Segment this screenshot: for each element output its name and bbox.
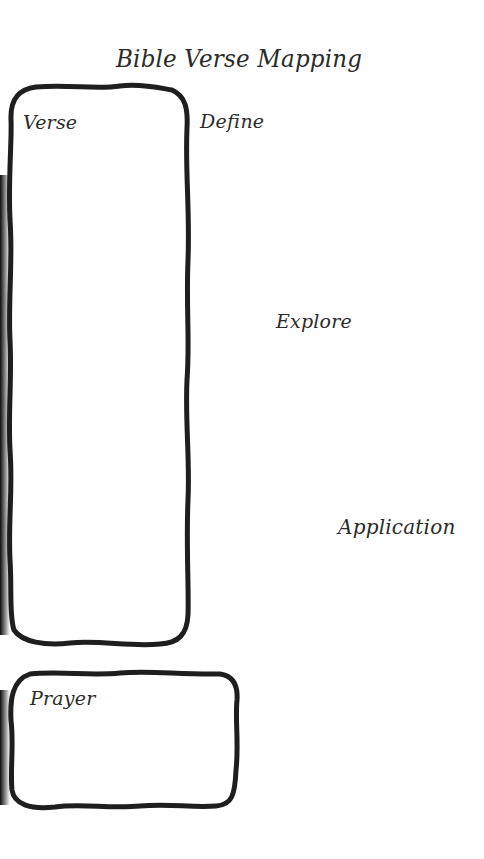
- application-writing-area[interactable]: [200, 548, 474, 652]
- verse-writing-area[interactable]: [20, 140, 184, 634]
- prayer-label: Prayer: [30, 687, 95, 709]
- define-label: Define: [200, 110, 264, 132]
- prayer-writing-area[interactable]: [28, 718, 232, 802]
- explore-writing-area[interactable]: [200, 340, 474, 514]
- worksheet-page: Bible Verse Mapping Verse Define Explore…: [0, 0, 484, 859]
- application-label: Application: [338, 515, 456, 539]
- explore-label: Explore: [276, 310, 352, 332]
- page-title: Bible Verse Mapping: [116, 44, 362, 73]
- verse-label: Verse: [23, 111, 77, 133]
- define-writing-area[interactable]: [200, 140, 474, 304]
